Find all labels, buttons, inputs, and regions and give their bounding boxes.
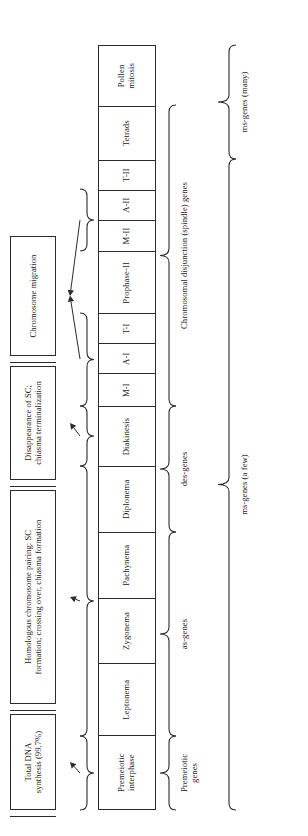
- phase-box-pachynema: Pachynema: [99, 532, 155, 598]
- meiosis-gene-expression-figure: Premeiotic interphaseLeptonemaZygonemaPa…: [0, 0, 308, 836]
- phase-box-diakinesis: Diakinesis: [99, 406, 155, 466]
- brace-ms-genes-a-few: [218, 159, 236, 810]
- phase-box-zygonema: Zygonema: [99, 598, 155, 664]
- connector-arrow-total-dna-synthesis-0: [58, 750, 92, 785]
- event-caption-chromosome-migration: Chromosome migration: [10, 236, 56, 356]
- gene-group-label-premeiotic-genes: Premeiotic genes: [179, 736, 199, 810]
- event-caption-homologous-pairing: Homologous chromosome pairing: SC format…: [10, 490, 56, 704]
- phase-box-anaphase-ii: A-II: [99, 190, 155, 220]
- connector-arrow-homologous-pairing-1: [58, 585, 92, 613]
- meiotic-phase-strip: Premeiotic interphaseLeptonemaZygonemaPa…: [98, 45, 156, 810]
- caption-tick-total-dna-synthesis: [10, 816, 56, 817]
- phase-box-premeiotic-interphase: Premeiotic interphase: [99, 735, 155, 809]
- brace-as-genes: [160, 532, 176, 736]
- phase-box-anaphase-i: A-I: [99, 343, 155, 373]
- brace-ms-genes-many: [218, 45, 236, 159]
- phase-box-metaphase-i: M-I: [99, 373, 155, 406]
- connector-arrow-sc-disappearance-2: [58, 411, 92, 448]
- event-caption-sc-disappearance: Disappearance of SC; chiasma terminaliza…: [10, 366, 56, 480]
- ms-gene-label-ms-genes-many: ms-genes (many): [239, 47, 249, 157]
- caption-tick-chromosome-migration: [10, 362, 56, 363]
- ms-gene-label-ms-genes-a-few: ms-genes (a few): [239, 430, 249, 540]
- brace-des-genes: [160, 406, 176, 532]
- phase-box-prophase-ii: Prophase-II: [99, 251, 155, 313]
- brace-spindle-genes: [160, 105, 176, 406]
- gene-group-label-des-genes: des-genes: [179, 424, 189, 514]
- brace-premeiotic-genes: [160, 736, 176, 810]
- phase-box-metaphase-ii: M-II: [99, 220, 155, 252]
- figure-stage: Premeiotic interphaseLeptonemaZygonemaPa…: [0, 0, 308, 836]
- phase-box-telophase-ii: T-II: [99, 160, 155, 190]
- connector-arrow-chromosome-migration-4: [58, 208, 92, 308]
- phase-box-pollen-mitosis: Pollen mitosis: [99, 46, 155, 106]
- phase-box-leptonema: Leptonema: [99, 663, 155, 735]
- phase-box-tetrads: Tetrads: [99, 106, 155, 160]
- phase-box-diplonema: Diplonema: [99, 466, 155, 532]
- event-caption-total-dna-synthesis: Total DNA synthesis (99.7%): [10, 714, 56, 810]
- caption-tick-homologous-pairing: [10, 710, 56, 711]
- phase-box-telophase-i: T-I: [99, 313, 155, 343]
- caption-tick-sc-disappearance: [10, 486, 56, 487]
- gene-group-label-as-genes: as-genes: [179, 589, 189, 679]
- gene-group-label-spindle-genes: Chromosomal disjunction (spindle) genes: [179, 106, 189, 406]
